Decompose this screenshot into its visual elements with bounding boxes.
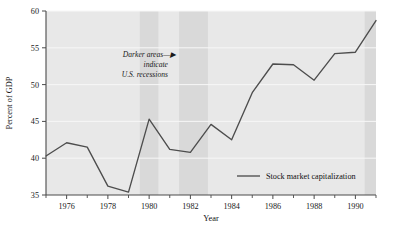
recession-band-2	[179, 11, 208, 195]
x-tick-label-1986: 1986	[265, 202, 281, 211]
y-tick-label-50: 50	[31, 81, 39, 90]
x-tick-label-1976: 1976	[58, 202, 74, 211]
x-tick-label-1982: 1982	[182, 202, 198, 211]
recession-annotation-line-3: U.S. recessions	[122, 70, 168, 79]
x-tick-label-1990: 1990	[347, 202, 363, 211]
x-axis-title: Year	[203, 214, 219, 223]
recession-band-3	[365, 11, 376, 195]
recession-annotation-line-2: indicate	[144, 60, 169, 69]
x-tick-label-1984: 1984	[223, 202, 239, 211]
recession-band-1	[140, 11, 159, 195]
y-tick-label-45: 45	[31, 117, 39, 126]
plot-area-background	[46, 11, 376, 195]
y-tick-label-60: 60	[31, 7, 39, 16]
y-tick-label-40: 40	[31, 154, 39, 163]
y-axis-title: Percent of GDP	[5, 76, 14, 129]
y-tick-label-35: 35	[31, 191, 39, 200]
recession-annotation-line-1: Darker areas—▶	[122, 50, 177, 59]
x-tick-label-1980: 1980	[141, 202, 157, 211]
stock-market-capitalization-chart: 354045505560 197619781980198219841986198…	[0, 0, 401, 241]
y-tick-label-55: 55	[31, 44, 39, 53]
legend-label-stock-market-capitalization: Stock market capitalization	[266, 172, 356, 181]
x-tick-label-1988: 1988	[306, 202, 322, 211]
x-tick-label-1978: 1978	[100, 202, 116, 211]
